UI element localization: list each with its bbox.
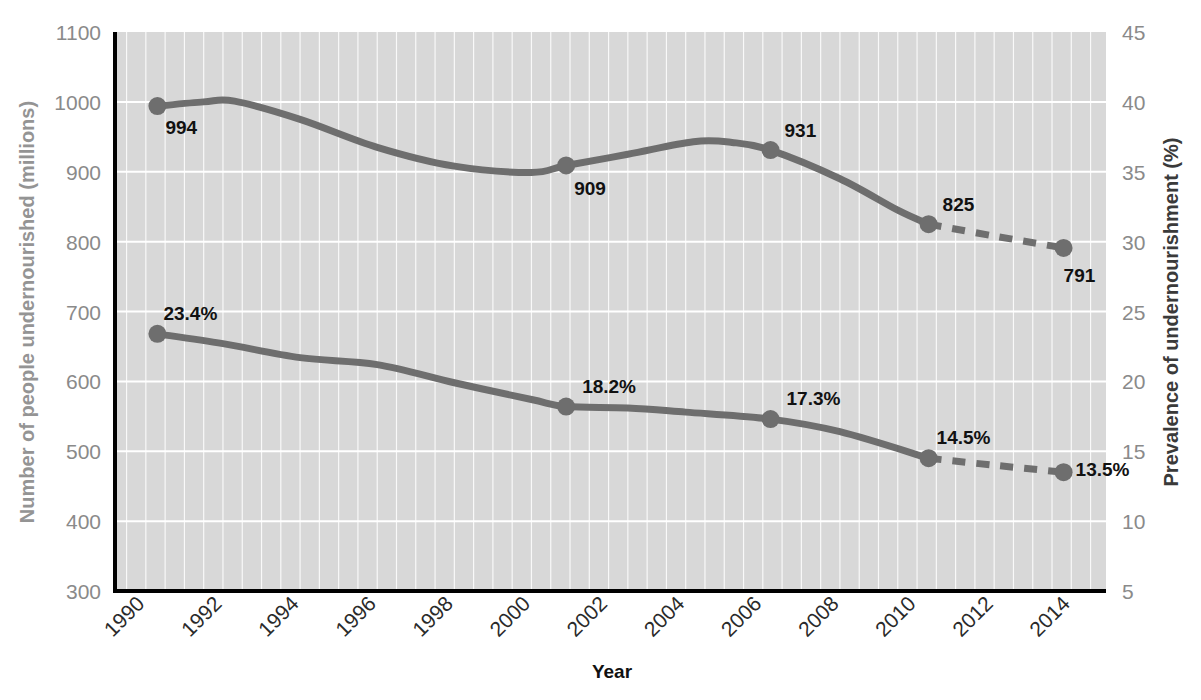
data-point-marker-millions	[557, 156, 575, 174]
data-point-label-millions: 825	[943, 194, 975, 215]
data-point-marker-percent	[920, 449, 938, 467]
y-axis-right-tick: 40	[1122, 91, 1145, 114]
y-axis-right-tick: 15	[1122, 440, 1145, 463]
y-axis-right-tick: 5	[1122, 580, 1134, 603]
undernourishment-line-chart: 99490993182579123.4%18.2%17.3%14.5%13.5%…	[0, 0, 1201, 700]
data-point-label-millions: 909	[574, 178, 606, 199]
y-axis-left-tick: 1100	[56, 21, 101, 44]
data-point-marker-percent	[762, 410, 780, 428]
y-axis-right-tick-labels: 51015202530354045	[1122, 21, 1145, 603]
y-axis-right-title: Prevalence of undernourishment (%)	[1160, 138, 1182, 487]
data-point-marker-percent	[1055, 463, 1073, 481]
y-axis-right-tick: 10	[1122, 510, 1145, 533]
y-axis-left-tick: 300	[66, 580, 101, 603]
data-point-marker-millions	[920, 215, 938, 233]
x-axis-title: Year	[592, 661, 633, 682]
data-point-label-percent: 18.2%	[582, 376, 636, 397]
y-axis-left-tick: 700	[66, 301, 101, 324]
y-axis-left-tick: 1000	[54, 91, 101, 114]
y-axis-left-tick: 500	[66, 440, 101, 463]
data-point-label-millions: 791	[1064, 265, 1096, 286]
chart-container: 99490993182579123.4%18.2%17.3%14.5%13.5%…	[0, 0, 1201, 700]
y-axis-right-tick: 45	[1122, 21, 1145, 44]
data-point-label-percent: 14.5%	[937, 427, 991, 448]
y-axis-right-tick: 25	[1122, 301, 1145, 324]
y-axis-left-tick: 600	[66, 370, 101, 393]
data-point-marker-percent	[148, 325, 166, 343]
data-point-label-millions: 994	[165, 117, 197, 138]
y-axis-right-tick: 20	[1122, 370, 1145, 393]
data-point-marker-millions	[148, 97, 166, 115]
y-axis-left-title: Number of people undernourished (million…	[16, 101, 38, 523]
data-point-label-percent: 17.3%	[787, 388, 841, 409]
y-axis-right-tick: 30	[1122, 231, 1145, 254]
data-point-marker-millions	[1055, 239, 1073, 257]
y-axis-left-tick: 400	[66, 510, 101, 533]
data-point-marker-millions	[762, 141, 780, 159]
y-axis-left-tick: 900	[66, 161, 101, 184]
data-point-label-percent: 23.4%	[163, 303, 217, 324]
y-axis-right-tick: 35	[1122, 161, 1145, 184]
data-point-marker-percent	[557, 398, 575, 416]
data-point-label-millions: 931	[785, 120, 817, 141]
y-axis-left-tick: 800	[66, 231, 101, 254]
